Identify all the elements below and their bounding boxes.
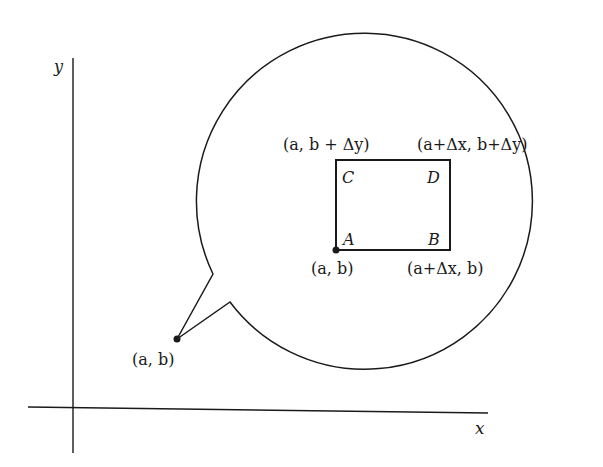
corner-a-coords: (a, b) (311, 259, 353, 278)
corner-label-c: C (342, 168, 354, 187)
corner-label-d: D (426, 168, 440, 187)
x-axis (28, 407, 488, 413)
corner-d-coords: (a+Δx, b+Δy) (417, 135, 527, 154)
point-dot (174, 336, 181, 343)
corner-c-coords: (a, b + Δy) (283, 135, 370, 154)
diagram-canvas: y x (a, b) C D A B (a, b + Δy) (a+Δx, b+… (0, 0, 603, 467)
corner-a-dot (333, 247, 340, 254)
corner-b-coords: (a+Δx, b) (407, 259, 483, 278)
magnify-bubble (177, 33, 532, 369)
x-axis-label: x (475, 418, 485, 438)
corner-label-a: A (341, 230, 355, 249)
point-label: (a, b) (132, 350, 174, 369)
y-axis-label: y (53, 57, 64, 76)
corner-label-b: B (427, 230, 440, 249)
